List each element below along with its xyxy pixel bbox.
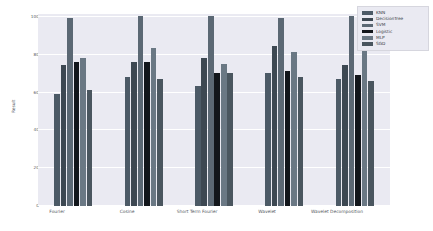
bar-chart-figure: Result 0 20 40 60 80 100 Fourier Cosine … xyxy=(0,0,433,231)
y-tick-label: 20 xyxy=(5,166,39,170)
bar xyxy=(201,58,207,206)
legend-swatch-icon xyxy=(362,30,373,33)
bar xyxy=(285,71,291,206)
y-tick-label: 40 xyxy=(5,128,39,132)
bar xyxy=(265,73,271,206)
legend-label: SGD xyxy=(376,42,385,46)
y-tick-label: 0 xyxy=(5,204,39,208)
bar xyxy=(355,75,361,206)
bar xyxy=(278,18,284,206)
x-tick-label: Wavelet xyxy=(228,210,306,214)
legend-item: SGD xyxy=(362,41,424,47)
bars-layer xyxy=(38,14,390,206)
bar xyxy=(131,62,137,206)
chart-legend: KNN DecisionTree SVM Logistic MLP SGD xyxy=(357,6,429,51)
x-tick-label: Short Term Fourier xyxy=(158,210,236,214)
legend-label: SVM xyxy=(376,23,385,27)
bar xyxy=(157,79,163,206)
y-tick-label: 100 xyxy=(5,15,39,19)
bar xyxy=(298,77,304,206)
bar xyxy=(272,46,278,206)
bar xyxy=(227,73,233,206)
plot-area xyxy=(38,14,390,206)
legend-swatch-icon xyxy=(362,42,373,45)
bar-group xyxy=(54,14,92,206)
bar xyxy=(208,16,214,206)
bar xyxy=(195,86,201,206)
bar xyxy=(291,52,297,206)
bar xyxy=(368,81,374,206)
x-tick-label: Fourier xyxy=(18,210,96,214)
bar xyxy=(67,18,73,206)
bar xyxy=(54,94,60,206)
bar xyxy=(342,65,348,206)
legend-label: Logistic xyxy=(376,30,392,34)
bar xyxy=(125,77,131,206)
bar xyxy=(362,43,368,206)
y-tick-label: 80 xyxy=(5,53,39,57)
bar xyxy=(214,73,220,206)
bar xyxy=(144,62,150,206)
bar xyxy=(74,62,80,206)
x-tick-label: Cosine xyxy=(88,210,166,214)
bar xyxy=(87,90,93,206)
bar xyxy=(349,16,355,206)
bar-group xyxy=(125,14,163,206)
bar xyxy=(138,16,144,206)
legend-swatch-icon xyxy=(362,24,373,27)
bar-group xyxy=(195,14,233,206)
legend-swatch-icon xyxy=(362,11,373,14)
legend-label: DecisionTree xyxy=(376,17,403,21)
x-tick-label: Wavelet Decomposition xyxy=(298,210,376,214)
bar xyxy=(221,64,227,207)
legend-swatch-icon xyxy=(362,36,373,39)
bar xyxy=(151,48,157,206)
bar xyxy=(336,79,342,206)
bar xyxy=(80,58,86,206)
legend-label: KNN xyxy=(376,11,385,15)
bar xyxy=(61,65,67,206)
y-tick-label: 60 xyxy=(5,91,39,95)
bar-group xyxy=(265,14,303,206)
legend-label: MLP xyxy=(376,36,385,40)
legend-swatch-icon xyxy=(362,18,373,21)
